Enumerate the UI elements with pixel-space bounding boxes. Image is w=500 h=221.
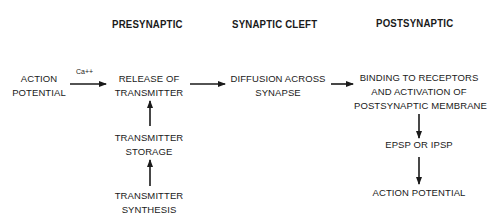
- node-action-potential-input: ACTION POTENTIAL: [10, 72, 68, 100]
- node-line: ACTION: [10, 72, 68, 86]
- node-line: TRANSMITTER: [106, 86, 192, 100]
- node-line: STORAGE: [106, 145, 192, 159]
- calcium-label: Ca++: [76, 68, 93, 75]
- node-diffusion-across-synapse: DIFFUSION ACROSS SYNAPSE: [226, 72, 330, 100]
- node-line: TRANSMITTER: [106, 131, 192, 145]
- node-line: EPSP OR IPSP: [364, 138, 474, 152]
- node-line: BINDING TO RECEPTORS: [354, 71, 484, 85]
- node-transmitter-synthesis: TRANSMITTER SYNTHESIS: [106, 189, 192, 217]
- node-line: RELEASE OF: [106, 72, 192, 86]
- node-line: SYNTHESIS: [106, 203, 192, 217]
- node-epsp-or-ipsp: EPSP OR IPSP: [364, 138, 474, 152]
- node-line: DIFFUSION ACROSS: [226, 72, 330, 86]
- node-binding-to-receptors: BINDING TO RECEPTORS AND ACTIVATION OF P…: [354, 71, 484, 113]
- node-line: POTENTIAL: [10, 86, 68, 100]
- node-transmitter-storage: TRANSMITTER STORAGE: [106, 131, 192, 159]
- node-action-potential-output: ACTION POTENTIAL: [364, 186, 474, 200]
- node-line: POSTSYNAPTIC MEMBRANE: [354, 99, 484, 113]
- node-release-of-transmitter: RELEASE OF TRANSMITTER: [106, 72, 192, 100]
- node-line: TRANSMITTER: [106, 189, 192, 203]
- node-line: SYNAPSE: [226, 86, 330, 100]
- node-line: AND ACTIVATION OF: [354, 85, 484, 99]
- node-line: ACTION POTENTIAL: [364, 186, 474, 200]
